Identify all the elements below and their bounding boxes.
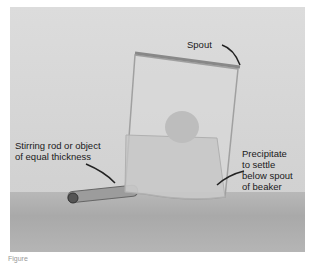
figure-caption: Figure bbox=[8, 255, 28, 262]
photo: Spout Stirring rod or object of equal th… bbox=[10, 7, 305, 252]
label-precipitate: Precipitate to settle below spout of bea… bbox=[242, 148, 293, 192]
label-spout: Spout bbox=[187, 39, 212, 50]
beaker-illustration bbox=[10, 7, 305, 252]
label-stirring-rod: Stirring rod or object of equal thicknes… bbox=[15, 140, 101, 162]
